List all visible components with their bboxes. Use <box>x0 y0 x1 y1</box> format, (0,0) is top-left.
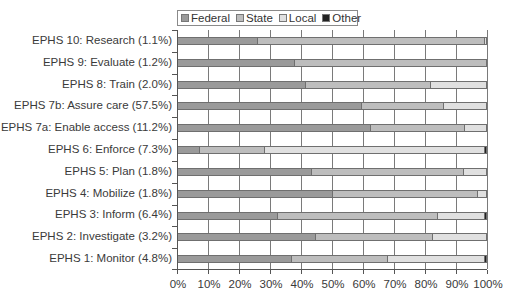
bar-segment-federal <box>178 59 295 67</box>
bar-segment-federal <box>178 37 258 45</box>
bar-row <box>178 226 487 248</box>
x-tick <box>363 270 364 274</box>
bar-segment-local <box>431 81 487 89</box>
category-label: EPHS 9: Evaluate (1.2%) <box>43 56 172 68</box>
y-tick <box>172 30 177 31</box>
bar-row <box>178 183 487 205</box>
y-tick <box>172 52 177 53</box>
bar-segment-local <box>265 146 486 154</box>
legend-label: Federal <box>191 12 230 24</box>
bar-segment-federal <box>178 102 362 110</box>
legend-item-state: State <box>236 12 273 24</box>
bar-row <box>178 74 487 96</box>
legend-item-local: Local <box>279 12 317 24</box>
x-tick <box>394 270 395 274</box>
bar-segment-federal <box>178 255 292 263</box>
x-tick <box>239 270 240 274</box>
x-tick <box>208 270 209 274</box>
legend-swatch <box>279 14 287 22</box>
x-tick <box>332 270 333 274</box>
x-tick-label: 30% <box>259 278 282 290</box>
stacked-bar <box>178 102 487 110</box>
x-tick-label: 70% <box>383 278 406 290</box>
bar-segment-state <box>371 124 465 132</box>
bar-segment-state <box>278 212 437 220</box>
bar-row <box>178 95 487 117</box>
stacked-bar <box>178 124 487 132</box>
bar-segment-state <box>312 168 463 176</box>
x-tick-label: 90% <box>445 278 468 290</box>
bar-segment-federal <box>178 81 306 89</box>
bar-segment-local <box>465 124 487 132</box>
x-tick <box>425 270 426 274</box>
bar-row <box>178 205 487 227</box>
category-label: EPHS 7a: Enable access (11.2%) <box>1 121 172 133</box>
stacked-bar <box>178 37 487 45</box>
bar-segment-state <box>200 146 265 154</box>
legend-label: State <box>246 12 273 24</box>
x-tick-label: 10% <box>197 278 220 290</box>
bar-row <box>178 161 487 183</box>
x-tick <box>456 270 457 274</box>
x-tick <box>270 270 271 274</box>
category-label: EPHS 7b: Assure care (57.5%) <box>14 99 172 111</box>
legend-swatch <box>181 14 189 22</box>
bar-row <box>178 30 487 52</box>
legend-item-other: Other <box>322 12 361 24</box>
bar-segment-state <box>258 37 485 45</box>
plot-area <box>177 30 487 270</box>
x-tick-label: 50% <box>321 278 344 290</box>
bar-segment-state <box>316 233 433 241</box>
bar-segment-local <box>464 168 487 176</box>
bar-segment-other <box>485 212 487 220</box>
bar-segment-state <box>333 190 478 198</box>
category-label: EPHS 8: Train (2.0%) <box>62 78 172 90</box>
y-tick <box>172 161 177 162</box>
stacked-bar <box>178 168 487 176</box>
bar-segment-local <box>485 37 487 45</box>
legend-swatch <box>236 14 244 22</box>
x-tick-label: 80% <box>414 278 437 290</box>
legend-item-federal: Federal <box>181 12 230 24</box>
bar-segment-other <box>485 146 487 154</box>
bar-segment-local <box>433 233 487 241</box>
category-label: EPHS 6: Enforce (7.3%) <box>48 143 172 155</box>
bar-segment-federal <box>178 212 278 220</box>
stacked-bar <box>178 190 487 198</box>
category-label: EPHS 5: Plan (1.8%) <box>65 165 172 177</box>
y-tick <box>172 74 177 75</box>
bar-segment-local <box>438 212 486 220</box>
bar-segment-state <box>292 255 388 263</box>
x-tick-label: 0% <box>170 278 187 290</box>
bar-segment-federal <box>178 233 316 241</box>
x-tick-label: 40% <box>290 278 313 290</box>
stacked-bar <box>178 233 487 241</box>
bar-segment-federal <box>178 190 333 198</box>
category-label: EPHS 10: Research (1.1%) <box>32 34 172 46</box>
bar-segment-federal <box>178 124 371 132</box>
bar-row <box>178 248 487 270</box>
category-label: EPHS 4: Mobilize (1.8%) <box>45 187 172 199</box>
y-tick <box>172 205 177 206</box>
bar-segment-state <box>362 102 444 110</box>
x-tick-label: 100% <box>473 278 502 290</box>
y-tick <box>172 248 177 249</box>
legend: FederalStateLocalOther <box>177 10 358 26</box>
x-tick <box>177 270 178 274</box>
stacked-bar-chart: FederalStateLocalOther EPHS 10: Research… <box>0 0 513 297</box>
bar-row <box>178 139 487 161</box>
stacked-bar <box>178 212 487 220</box>
x-tick-label: 20% <box>228 278 251 290</box>
stacked-bar <box>178 81 487 89</box>
stacked-bar <box>178 146 487 154</box>
bar-segment-local <box>478 190 487 198</box>
x-tick <box>301 270 302 274</box>
bar-segment-federal <box>178 168 312 176</box>
y-tick <box>172 117 177 118</box>
bar-segment-state <box>306 81 431 89</box>
legend-swatch <box>322 14 330 22</box>
stacked-bar <box>178 59 487 67</box>
bar-row <box>178 52 487 74</box>
category-label: EPHS 2: Investigate (3.2%) <box>32 230 172 242</box>
bar-segment-state <box>295 59 487 67</box>
